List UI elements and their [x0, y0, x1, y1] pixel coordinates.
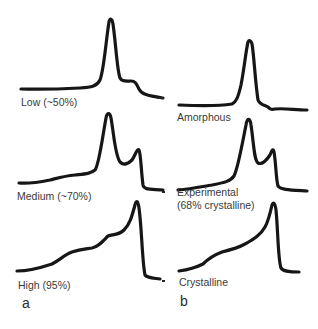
- label-amorphous: Amorphous: [177, 111, 231, 123]
- panel-label-b: b: [180, 293, 188, 309]
- label-crystalline: Crystalline: [179, 276, 228, 288]
- curve-crystalline: [179, 203, 299, 272]
- curve-experimental: [178, 119, 307, 191]
- curve-high: [17, 202, 160, 279]
- label-high: High (95%): [18, 279, 71, 291]
- label-experimental-detail: (68% crystalline): [177, 199, 255, 211]
- curve-amorphous: [179, 41, 307, 110]
- label-medium: Medium (~70%): [17, 190, 91, 202]
- panel-b-tick-1: [157, 97, 164, 99]
- label-experimental: Experimental: [177, 186, 238, 198]
- label-low: Low (~50%): [21, 96, 77, 108]
- panel-b-tick-2: [162, 191, 165, 193]
- curve-medium: [19, 114, 163, 191]
- curve-low: [21, 19, 163, 98]
- panel-b-tick-3: [162, 280, 165, 282]
- panel-label-a: a: [22, 295, 30, 311]
